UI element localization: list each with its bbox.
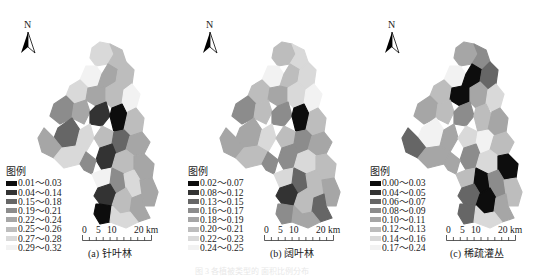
legend-swatch: [6, 190, 17, 195]
scale-label: 0: [264, 224, 269, 235]
legend-swatch: [370, 245, 381, 250]
scale-bar-ruler: [446, 235, 516, 241]
map-panel-sparse-shrub: N 图例 0.00～0.030.04～0.050.06～0.070.08～0.0…: [364, 0, 546, 274]
legend-swatch: [6, 181, 17, 186]
legend-swatch: [188, 217, 199, 222]
scale-label: 5: [460, 224, 465, 235]
legend-swatch: [6, 227, 17, 232]
legend-swatch: [370, 227, 381, 232]
legend-swatch: [6, 245, 17, 250]
map-region: [90, 102, 110, 126]
legend-item: 0.29～0.32: [6, 243, 62, 252]
scale-label: 0: [446, 224, 451, 235]
legend-swatch: [188, 236, 199, 241]
legend-swatch: [188, 181, 199, 186]
scale-label: 20 km: [498, 224, 522, 235]
legend-title: 图例: [370, 167, 426, 177]
scale-label: 10: [107, 224, 117, 235]
scale-label: 10: [471, 224, 481, 235]
scale-bar-ruler: [264, 235, 334, 241]
map-region: [436, 100, 454, 124]
legend: 图例 0.01～0.030.04～0.140.15～0.180.19～0.210…: [6, 167, 62, 252]
legend-item: 0.17～0.24: [370, 243, 426, 252]
scale-label: 20 km: [316, 224, 340, 235]
legend-swatch: [188, 190, 199, 195]
scale-label: 20 km: [134, 224, 158, 235]
map-region: [72, 100, 90, 124]
legend-swatch: [370, 217, 381, 222]
legend-label: 0.29～0.32: [18, 243, 62, 253]
legend-swatch: [188, 199, 199, 204]
scale-label: 5: [96, 224, 101, 235]
scale-label: 10: [289, 224, 299, 235]
legend-label: 0.24～0.25: [200, 243, 244, 253]
map-panel-coniferous: N 图例 0.01～0.030.04～0.140.15～0.180.19～0.2…: [0, 0, 182, 274]
scale-bar: 051020 km: [446, 224, 538, 241]
scale-label: 5: [278, 224, 283, 235]
legend-title: 图例: [6, 167, 62, 177]
scale-bar: 051020 km: [82, 224, 174, 241]
legend-swatch: [370, 208, 381, 213]
scale-label: 0: [82, 224, 87, 235]
panel-caption: (c) 稀疏灌丛: [450, 245, 504, 260]
map-region: [94, 204, 112, 224]
map-region: [276, 204, 294, 224]
figure-caption: 图 3 各植被类型的 面积比例分布: [195, 265, 309, 276]
scale-bar-ruler: [82, 235, 152, 241]
legend: 图例 0.00～0.030.04～0.050.06～0.070.08～0.090…: [370, 167, 426, 252]
panel-caption: (a) 针叶林: [88, 245, 132, 260]
legend-swatch: [370, 181, 381, 186]
legend-swatch: [188, 245, 199, 250]
legend-swatch: [6, 236, 17, 241]
legend: 图例 0.02～0.070.08～0.120.13～0.150.16～0.170…: [188, 167, 244, 252]
map-region: [458, 204, 476, 224]
legend-swatch: [370, 199, 381, 204]
legend-swatch: [6, 199, 17, 204]
legend-swatch: [188, 208, 199, 213]
legend-swatch: [6, 217, 17, 222]
legend-swatch: [6, 208, 17, 213]
map-panel-broadleaf: N 图例 0.02～0.070.08～0.120.13～0.150.16～0.1…: [182, 0, 364, 274]
map-region: [272, 102, 292, 126]
legend-item: 0.24～0.25: [188, 243, 244, 252]
map-region: [454, 102, 474, 126]
legend-swatch: [188, 227, 199, 232]
legend-label: 0.17～0.24: [382, 243, 426, 253]
legend-swatch: [370, 236, 381, 241]
map-region: [254, 100, 272, 124]
legend-title: 图例: [188, 167, 244, 177]
panel-caption: (b) 阔叶林: [270, 245, 314, 260]
legend-swatch: [370, 190, 381, 195]
scale-bar: 051020 km: [264, 224, 356, 241]
